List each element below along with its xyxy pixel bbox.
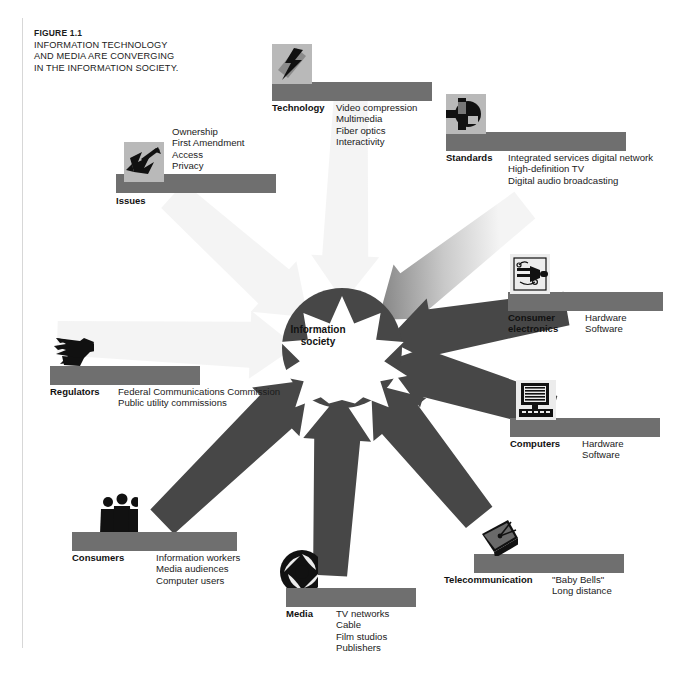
node-bar (72, 532, 237, 551)
node-label: Computers (510, 439, 560, 450)
node-bar (272, 82, 432, 101)
node-item: High-definition TV (508, 163, 653, 174)
node-bar (446, 132, 626, 151)
node-item: Information workers (156, 552, 240, 563)
node-item: Hardware (585, 312, 627, 323)
arrows-scatter-icon (124, 142, 164, 182)
node-items: "Baby Bells" Long distance (552, 574, 612, 597)
node-item: Cable (336, 619, 389, 630)
node-item: "Baby Bells" (552, 574, 612, 585)
node-item: Integrated services digital network (508, 152, 653, 163)
lightning-bolt-icon (272, 44, 312, 84)
node-items: Integrated services digital network High… (508, 152, 653, 186)
node-item: Film studios (336, 631, 389, 642)
node-item: Ownership (172, 126, 245, 137)
node-label-line-1: Consumer (508, 313, 558, 324)
node-item: TV networks (336, 608, 389, 619)
node-item: Interactivity (336, 136, 417, 147)
node-label: Issues (116, 196, 146, 207)
node-items: Video compression Multimedia Fiber optic… (336, 102, 417, 148)
node-item: Software (582, 449, 624, 460)
node-items: Federal Communications Commission Public… (118, 386, 280, 409)
node-item: Hardware (582, 438, 624, 449)
node-label: Technology (272, 103, 325, 114)
hub-label-line-1: Information (258, 324, 378, 336)
node-bar (508, 292, 663, 311)
node-items: Hardware Software (585, 312, 627, 335)
node-label: Consumers (72, 553, 124, 564)
satellite-dish-icon (478, 516, 518, 556)
figure-1-1-diagram: FIGURE 1.1 INFORMATION TECHNOLOGY AND ME… (0, 0, 684, 676)
camera-aperture-icon (278, 548, 318, 588)
node-item: Software (585, 323, 627, 334)
node-item: Long distance (552, 585, 612, 596)
eagle-icon (54, 332, 94, 372)
node-item: Computer users (156, 575, 240, 586)
node-items: Information workers Media audiences Comp… (156, 552, 240, 586)
node-bar (474, 554, 624, 573)
crosshair-circle-icon (446, 94, 486, 134)
node-label: Consumer electronics (508, 313, 558, 334)
node-items: Hardware Software (582, 438, 624, 461)
node-items: Ownership First Amendment Access Privacy (172, 126, 245, 172)
node-item: Publishers (336, 642, 389, 653)
node-bar (510, 418, 660, 437)
node-item: Public utility commissions (118, 397, 280, 408)
node-item: Multimedia (336, 113, 417, 124)
node-item: Media audiences (156, 563, 240, 574)
node-item: Privacy (172, 160, 245, 171)
hub-label-line-2: society (258, 336, 378, 348)
desktop-computer-icon (516, 380, 556, 420)
node-item: Video compression (336, 102, 417, 113)
node-label: Telecommunication (444, 575, 533, 586)
node-label-line-2: electronics (508, 324, 558, 335)
node-items: TV networks Cable Film studios Publisher… (336, 608, 389, 654)
node-item: First Amendment (172, 137, 245, 148)
people-group-icon (98, 492, 138, 532)
node-item: Access (172, 149, 245, 160)
node-label: Regulators (50, 387, 100, 398)
node-item: Fiber optics (336, 125, 417, 136)
node-label: Standards (446, 153, 492, 164)
node-item: Federal Communications Commission (118, 386, 280, 397)
node-label: Media (286, 609, 313, 620)
circuit-plug-icon (510, 254, 550, 294)
node-bar (286, 588, 416, 607)
node-item: Digital audio broadcasting (508, 175, 653, 186)
